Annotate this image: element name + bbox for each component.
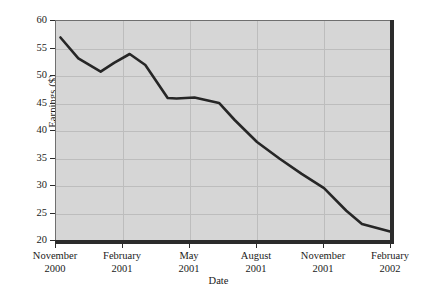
- x-tick-label-year: 2002: [347, 262, 433, 275]
- y-tick-mark: [50, 213, 55, 214]
- y-tick-label: 55: [22, 43, 47, 53]
- x-tick-label: February2002: [347, 249, 433, 275]
- y-tick-mark: [50, 158, 55, 159]
- x-tick-mark: [323, 244, 324, 248]
- y-tick-label: 25: [22, 208, 47, 218]
- y-tick-label: 60: [22, 15, 47, 25]
- y-tick-mark: [50, 20, 55, 21]
- y-tick-label: 40: [22, 125, 47, 135]
- series-line-earnings: [60, 38, 391, 232]
- y-tick-label: 50: [22, 70, 47, 80]
- plot-border-right: [390, 20, 394, 244]
- plot-border-bottom: [55, 240, 394, 244]
- x-tick-label-month: February: [347, 249, 433, 262]
- y-tick-mark: [50, 75, 55, 76]
- x-tick-mark: [55, 244, 56, 248]
- y-tick-label: 35: [22, 153, 47, 163]
- data-series-earnings: [56, 21, 391, 241]
- y-tick-mark: [50, 103, 55, 104]
- y-tick-label: 30: [22, 180, 47, 190]
- x-tick-mark: [189, 244, 190, 248]
- x-tick-mark: [256, 244, 257, 248]
- plot-area: [55, 20, 390, 240]
- y-tick-label: 20: [22, 235, 47, 245]
- y-tick-mark: [50, 130, 55, 131]
- y-tick-mark: [50, 48, 55, 49]
- x-tick-mark: [390, 244, 391, 248]
- y-tick-label: 45: [22, 98, 47, 108]
- x-tick-mark: [122, 244, 123, 248]
- y-tick-mark: [50, 185, 55, 186]
- y-tick-mark: [50, 240, 55, 241]
- x-axis-title: Date: [0, 275, 437, 286]
- line-chart-figure: Earnings ($) 202530354045505560 November…: [0, 0, 437, 297]
